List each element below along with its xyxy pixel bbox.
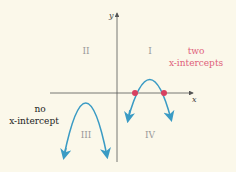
y-axis-label: y (108, 11, 114, 20)
quadrant-ii-label: II (82, 46, 90, 56)
parabola-diagram: x y I II III IV two x-intercepts no x-in… (0, 0, 236, 172)
two-intercepts-label-line2: x-intercepts (169, 58, 224, 68)
no-intercept-label-line2: x-intercept (9, 116, 59, 126)
intercept-point-left (132, 90, 138, 96)
x-axis-label: x (192, 95, 197, 104)
quadrant-i-label: I (148, 46, 152, 56)
quadrant-iv-label: IV (145, 130, 156, 140)
parabola-two-intercepts (128, 80, 171, 120)
no-intercept-label-line1: no (34, 104, 45, 114)
intercept-point-right (161, 90, 167, 96)
two-intercepts-label-line1: two (188, 46, 205, 56)
quadrant-iii-label: III (81, 130, 92, 140)
